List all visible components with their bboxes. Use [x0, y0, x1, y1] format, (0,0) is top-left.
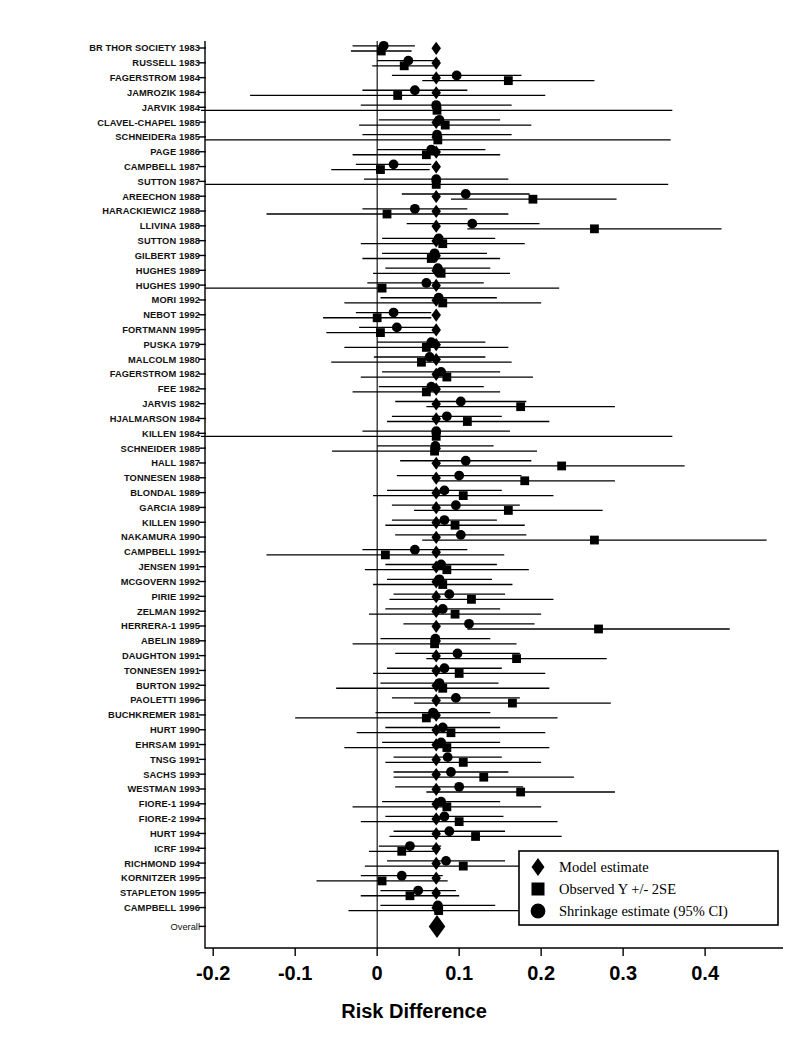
observed-square-marker	[479, 773, 488, 782]
study-label: HERRERA-1 1995	[121, 621, 200, 631]
shrinkage-circle-marker	[444, 826, 454, 836]
study-label: ZELMAN 1992	[137, 607, 200, 617]
shrinkage-circle-marker	[413, 886, 423, 896]
model-diamond-marker	[431, 501, 441, 514]
study-label: RUSSELL 1983	[132, 58, 200, 68]
x-axis-tick-label: -0.1	[278, 962, 312, 984]
study-label: DAUGHTON 1991	[122, 651, 200, 661]
forest-row	[361, 812, 558, 827]
forest-row	[373, 663, 545, 678]
model-diamond-marker	[431, 57, 441, 70]
study-label: FAGERSTROM 1984	[110, 73, 201, 83]
study-label: HURT 1990	[150, 725, 200, 735]
x-axis-tick-label: 0.3	[609, 962, 637, 984]
x-axis-tick-label: 0	[372, 962, 383, 984]
study-label: HUGHES 1989	[136, 266, 200, 276]
shrinkage-circle-marker	[439, 486, 449, 496]
study-label: MORI 1992	[152, 295, 200, 305]
forest-row	[344, 337, 508, 351]
study-label: HUGHES 1990	[136, 281, 200, 291]
observed-square-marker	[557, 462, 566, 471]
shrinkage-circle-marker	[461, 189, 471, 199]
study-label-column: BR THOR SOCIETY 1983RUSSELL 1983FAGERSTR…	[89, 43, 201, 931]
forest-row	[344, 293, 541, 308]
forest-row	[400, 456, 684, 470]
x-axis-group: -0.2-0.100.10.20.30.4Risk Difference	[196, 948, 720, 1022]
shrinkage-circle-marker	[403, 56, 413, 66]
observed-square-marker	[516, 402, 525, 411]
forest-row	[385, 515, 524, 530]
study-label: SACHS 1993	[143, 770, 200, 780]
study-label: CAMPBELL 1987	[124, 162, 200, 172]
shrinkage-circle-marker	[410, 545, 420, 555]
forest-row	[361, 886, 459, 901]
shrinkage-circle-marker	[443, 752, 453, 762]
forest-row	[357, 723, 546, 738]
shrinkage-circle-marker	[456, 530, 466, 540]
model-diamond-marker	[431, 812, 441, 825]
forest-row	[402, 189, 617, 204]
model-diamond-marker	[431, 71, 441, 84]
study-label: TONNESEN 1991	[124, 666, 200, 676]
study-label: PAGE 1986	[150, 147, 200, 157]
study-label: NEBOT 1992	[143, 310, 200, 320]
observed-square-marker	[378, 877, 387, 886]
study-label: KORNITZER 1995	[121, 873, 200, 883]
forest-row	[331, 159, 441, 174]
observed-square-marker	[508, 699, 517, 708]
observed-square-marker	[373, 313, 382, 322]
shrinkage-circle-marker	[439, 515, 449, 525]
forest-row	[373, 263, 510, 277]
model-diamond-marker	[431, 279, 441, 292]
x-axis-tick-label: 0.1	[445, 962, 473, 984]
forest-plot-canvas: BR THOR SOCIETY 1983RUSSELL 1983FAGERSTR…	[0, 0, 787, 1043]
model-diamond-marker	[431, 620, 441, 633]
shrinkage-circle-marker	[389, 159, 399, 169]
model-diamond-marker	[431, 531, 441, 544]
observed-square-marker	[397, 847, 406, 856]
study-label: CLAVEL-CHAPEL 1985	[97, 118, 200, 128]
forest-row	[403, 619, 729, 634]
shrinkage-circle-marker	[392, 322, 402, 332]
shrinkage-circle-marker	[451, 693, 461, 703]
study-label: LLIVINA 1988	[140, 221, 200, 231]
forest-row	[395, 649, 607, 664]
shrinkage-circle-marker	[442, 411, 452, 421]
model-diamond-marker	[431, 783, 441, 796]
study-label: SCHNEIDERa 1985	[115, 132, 200, 142]
model-diamond-marker	[431, 857, 441, 870]
forest-row	[317, 871, 448, 886]
study-label: MCGOVERN 1992	[121, 577, 200, 587]
model-diamond-marker	[431, 590, 441, 603]
study-label: JARVIK 1984	[142, 103, 201, 113]
model-diamond-marker	[431, 220, 441, 233]
forest-row	[389, 589, 553, 604]
shrinkage-circle-marker	[467, 219, 477, 229]
forest-row	[332, 441, 537, 455]
study-label: MALCOLM 1980	[128, 355, 200, 365]
overall-row	[429, 915, 446, 938]
study-label: KILLEN 1984	[142, 429, 201, 439]
study-label: KILLEN 1990	[142, 518, 200, 528]
shrinkage-circle-marker	[454, 471, 464, 481]
study-label: HURT 1994	[150, 829, 201, 839]
model-diamond-marker	[431, 486, 441, 499]
forest-row	[395, 782, 615, 797]
forest-row	[392, 693, 611, 708]
model-diamond-marker	[431, 872, 441, 885]
study-label: JAMROZIK 1984	[127, 88, 201, 98]
x-axis-tick-label: -0.2	[196, 962, 230, 984]
model-diamond-marker	[431, 694, 441, 707]
shrinkage-circle-marker	[379, 41, 389, 51]
forest-row	[266, 204, 508, 218]
legend: Model estimateObserved Y +/- 2SEShrinkag…	[519, 851, 778, 925]
study-label: PAOLETTI 1996	[130, 695, 200, 705]
shrinkage-circle-marker	[441, 856, 451, 866]
forest-row	[369, 841, 441, 856]
study-label: CAMPBELL 1996	[124, 903, 200, 913]
model-diamond-marker	[431, 664, 441, 677]
observed-square-marker	[504, 506, 513, 515]
study-label: TNSG 1991	[150, 755, 200, 765]
study-label: SUTTON 1988	[138, 236, 200, 246]
study-label: AREECHON 1988	[122, 192, 200, 202]
